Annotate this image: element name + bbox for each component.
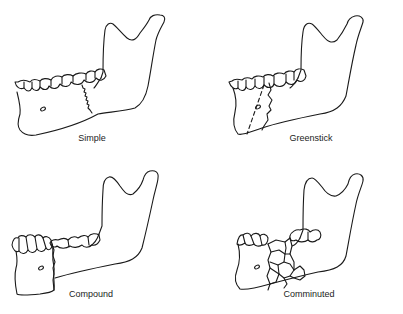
label-simple: Simple — [78, 133, 106, 143]
teeth-row-anterior — [12, 235, 52, 254]
mental-foramen — [38, 265, 44, 270]
panel-greenstick-mandible — [229, 16, 363, 135]
mental-foramen — [255, 104, 261, 109]
label-comminuted: Comminuted — [283, 289, 334, 299]
teeth-row-posterior — [290, 229, 321, 242]
mandible-outline — [235, 174, 363, 289]
label-greenstick: Greenstick — [289, 133, 332, 143]
diagram-artwork — [0, 0, 403, 314]
mental-foramen — [254, 264, 260, 269]
mental-foramen — [40, 106, 46, 111]
teeth-row — [15, 69, 106, 91]
greenstick-dashed-line — [247, 85, 264, 134]
panel-comminuted-mandible — [235, 174, 363, 290]
label-compound: Compound — [69, 289, 113, 299]
mandible-outline-posterior — [55, 171, 158, 278]
comminuted-fragments — [267, 238, 305, 290]
mandible-outline — [233, 16, 363, 135]
panel-simple-mandible — [15, 15, 165, 136]
fracture-line — [82, 85, 92, 113]
panel-compound-mandible — [12, 171, 158, 295]
mandible-fracture-diagram: Simple Greenstick Compound Comminuted — [0, 0, 403, 314]
teeth-row-posterior — [50, 234, 100, 249]
mandible-outline — [17, 15, 165, 136]
fracture-line — [262, 83, 272, 130]
